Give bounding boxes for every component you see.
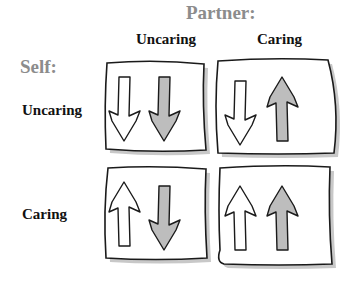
row-label-uncaring: Uncaring [22,102,82,119]
cell-caring-caring [210,160,353,281]
partner-heading: Partner: [186,2,256,24]
column-label-caring: Caring [257,31,302,48]
column-label-uncaring: Uncaring [136,31,196,48]
cell-caring-uncaring [100,160,220,270]
self-heading: Self: [20,56,57,78]
cell-uncaring-uncaring [100,55,220,160]
row-label-caring: Caring [22,206,67,223]
cell-uncaring-caring [210,55,353,165]
